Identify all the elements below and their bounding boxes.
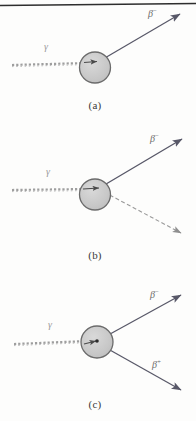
beta-charge-sup: −	[155, 288, 159, 296]
top-rule	[0, 4, 196, 6]
beta-charge-sup: −	[153, 7, 157, 15]
caption-c: (c)	[75, 398, 115, 410]
gamma-line-c	[14, 341, 88, 344]
gamma-line-c-overlay	[14, 343, 88, 346]
recoil-ray-b	[104, 192, 181, 233]
beta-charge-sup: −	[155, 132, 159, 140]
figure-canvas	[0, 0, 196, 421]
gamma-line-a	[12, 63, 86, 65]
panel-c	[14, 295, 181, 390]
vertex-dot-c	[95, 339, 99, 343]
gamma-line-b	[12, 189, 86, 190]
physics-figure: γ β− (a) γ β− (b) γ β− β+ (c)	[0, 0, 196, 421]
panel-a	[12, 14, 180, 83]
gamma-line-b-overlay	[12, 191, 86, 192]
beta-charge-sup: +	[157, 358, 161, 366]
beta-minus-label-c: β−	[150, 288, 159, 300]
gamma-line-a-overlay	[12, 65, 86, 67]
beta-plus-label-c: β+	[152, 358, 161, 370]
beta-minus-ray-c	[101, 295, 181, 339]
beta-minus-ray-b	[101, 139, 182, 187]
beta-minus-ray-a	[98, 14, 180, 62]
gamma-label-b: γ	[46, 166, 50, 177]
panel-b	[12, 139, 182, 233]
gamma-label-c: γ	[48, 319, 52, 330]
caption-b: (b)	[75, 249, 115, 261]
gamma-label-a: γ	[44, 41, 48, 52]
beta-minus-label-b: β−	[150, 132, 159, 144]
nucleus-b	[80, 179, 111, 210]
nucleus-a	[80, 52, 111, 83]
caption-a: (a)	[75, 99, 115, 111]
beta-plus-ray-c	[101, 345, 181, 390]
beta-minus-label-a: β−	[148, 7, 157, 19]
